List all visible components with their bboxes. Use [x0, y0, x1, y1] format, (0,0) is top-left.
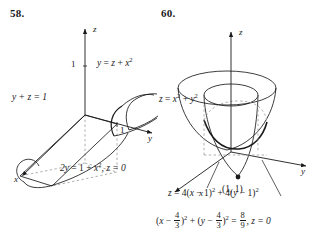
surface-equation-label-60: z = 4(x − 1)2 + 4(y − 1)2: [168, 189, 259, 199]
x-axis-label-58: x: [14, 175, 18, 184]
paraboloid-label-60: z = x2 + y2: [159, 95, 198, 105]
fraction-four-thirds-y: 43: [216, 211, 222, 229]
z-axis-label-58: z: [93, 25, 97, 34]
surface-label-58: y = z + x2: [97, 59, 133, 69]
cylinder-top-ruling-58: [122, 94, 154, 106]
inner-paraboloid-left-60: [204, 95, 238, 176]
fraction-four-thirds-x: 43: [174, 211, 180, 229]
figure-58-drawing: [0, 0, 159, 243]
y-axis-label-58: y: [148, 134, 152, 143]
trace-parabola-58: [24, 133, 128, 188]
cylinder-inner-rim-58: [126, 101, 133, 130]
plane-label-58: y + z = 1: [12, 93, 47, 103]
textbook-answer-figures-page: 58.: [0, 0, 318, 243]
figure-58: 58.: [0, 0, 159, 243]
trace-label-58: 2y = 1 + x2, z = 0: [60, 164, 126, 174]
y-axis-60: [231, 152, 306, 166]
leader-line-right-60: [262, 160, 281, 196]
circle-trace-label-60: (x − 43)2 + (y − 43)2 = 89, z = 0: [156, 211, 271, 229]
figure-60: 60.: [159, 0, 318, 243]
z-tick-label-58: 1: [71, 60, 76, 69]
fraction-eight-ninths: 89: [240, 211, 246, 229]
y-tick-label-58: 1: [120, 126, 125, 135]
leader-line-left-60: [207, 162, 219, 188]
point-1-1-marker-60: [236, 175, 241, 180]
y-axis-label-60: y: [301, 167, 305, 176]
inner-paraboloid-right-60: [238, 95, 258, 176]
z-axis-label-60: z: [239, 28, 243, 37]
